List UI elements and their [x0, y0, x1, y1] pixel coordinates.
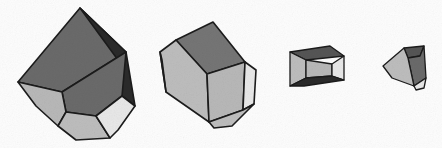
figure-root: Polyhedral block shown at four decreasin…: [0, 0, 442, 148]
polyhedral-blocks-figure: Polyhedral block shown at four decreasin…: [0, 0, 442, 148]
paper-grain-overlay: [0, 0, 442, 148]
